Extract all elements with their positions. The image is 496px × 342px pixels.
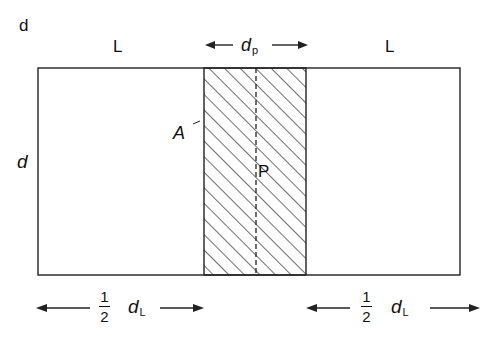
dl-right-label: dL [391,297,409,318]
dl-left-sub: L [140,306,146,318]
dp-arrow-right [272,41,308,49]
dl-right-arrow-right [430,304,480,312]
fraction-right: 1 2 [361,289,372,324]
fraction-right-numerator: 1 [362,289,370,304]
side-d-label: d [17,152,28,171]
dl-left-label: dL [128,297,146,318]
dl-right-main: d [391,296,402,317]
corner-label: d [19,17,28,34]
dl-left-arrow-left [36,304,90,312]
top-left-L-label: L [113,38,122,55]
dl-right-arrow-left [306,304,350,312]
fraction-right-bar [361,306,372,307]
region-A-label: A [173,124,185,142]
fraction-left: 1 2 [99,289,110,324]
dl-right-sub: L [403,306,409,318]
hatched-region [204,68,306,275]
dp-arrow-left [205,41,233,49]
centerline-P-label: P [258,163,269,180]
dp-sub: p [252,44,258,56]
fraction-left-denominator: 2 [100,309,108,324]
fraction-right-denominator: 2 [362,309,370,324]
dp-main: d [241,35,251,55]
top-right-L-label: L [385,38,394,55]
dl-left-arrow-right [160,304,204,312]
dp-label: dp [241,36,258,56]
leader-line-A [193,121,200,124]
fraction-left-bar [99,306,110,307]
fraction-left-numerator: 1 [100,289,108,304]
dl-left-main: d [128,296,139,317]
